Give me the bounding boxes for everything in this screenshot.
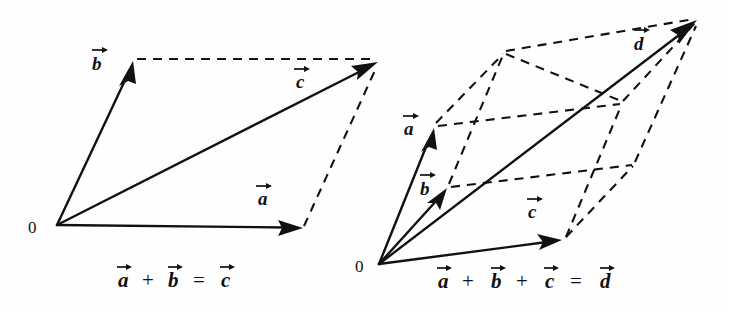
left-caption-a-overbar-arrow-icon [126, 264, 132, 270]
right-dashed-b-to-ab [449, 55, 503, 184]
right-dashed-b-to-bc [451, 165, 632, 187]
right-parallelepiped-diagram: a b c d 0 a [355, 19, 697, 293]
right-label-c-overbar-arrow-icon [537, 196, 543, 202]
left-caption-term-c: c [221, 268, 231, 292]
left-label-a-overbar-arrow-icon [266, 183, 272, 189]
left-label-b-group: b [92, 47, 108, 74]
right-caption-c-overbar-arrow-icon [553, 265, 559, 271]
left-label-a-group: a [256, 183, 272, 209]
right-label-b-group: b [420, 172, 436, 199]
left-vector-a-shaft [57, 225, 288, 228]
right-dashed-c-to-bc [566, 166, 633, 237]
left-label-b-overbar-arrow-icon [102, 47, 108, 53]
right-label-d-group: d [634, 27, 650, 54]
right-label-c-group: c [527, 196, 543, 222]
right-caption-equals: = [570, 269, 582, 293]
left-label-c-group: c [294, 66, 310, 92]
right-caption-term-d: d [600, 269, 611, 293]
left-dashed-right-edge [304, 66, 377, 226]
right-caption-term-a: a [438, 269, 449, 293]
left-caption-term-b: b [168, 268, 179, 292]
right-label-c: c [528, 201, 537, 222]
right-caption-b-overbar-arrow-icon [500, 265, 506, 271]
figure-root: a b c 0 a + b [0, 0, 729, 311]
left-caption-b-overbar-arrow-icon [177, 264, 183, 270]
left-label-b: b [92, 53, 102, 74]
right-caption-d-overbar-arrow-icon [609, 265, 615, 271]
right-caption-a-overbar-arrow-icon [446, 265, 452, 271]
right-dashed-a-to-ab [436, 54, 503, 123]
right-label-b: b [420, 178, 430, 199]
right-label-a: a [404, 118, 414, 139]
left-vector-c-arrowhead [351, 62, 378, 80]
right-origin-label: 0 [355, 257, 364, 276]
right-label-a-overbar-arrow-icon [413, 113, 419, 119]
right-dashed-a-to-ac [438, 104, 620, 126]
left-label-c: c [296, 71, 305, 92]
left-label-a: a [258, 188, 268, 209]
left-label-c-overbar-arrow-icon [304, 66, 310, 72]
right-caption-plus-2: + [516, 269, 528, 293]
left-origin-label: 0 [28, 218, 37, 237]
left-caption-equals: = [193, 268, 205, 292]
right-caption-term-b: b [491, 269, 502, 293]
right-caption-plus-1: + [462, 269, 474, 293]
right-caption-equation: a + b + c = d [437, 265, 615, 293]
right-caption-term-c: c [545, 269, 555, 293]
right-label-b-overbar-arrow-icon [430, 172, 436, 178]
right-vector-b-shaft [379, 200, 437, 264]
right-label-a-group: a [403, 113, 419, 139]
vector-diagrams-svg: a b c 0 a + b [0, 0, 729, 311]
right-vector-d-arrowhead [670, 20, 697, 44]
left-caption-c-overbar-arrow-icon [229, 264, 235, 270]
left-vector-b-shaft [57, 76, 127, 225]
left-parallelogram-diagram: a b c 0 a + b [28, 47, 378, 292]
right-dashed-c-to-ac [566, 106, 621, 237]
left-vector-b-arrowhead [119, 61, 136, 86]
left-caption-plus: + [142, 268, 154, 292]
right-vector-a-arrowhead [421, 128, 437, 152]
right-label-d: d [634, 33, 644, 54]
left-vector-c-shaft [57, 70, 363, 225]
right-label-d-overbar-arrow-icon [644, 27, 650, 33]
left-caption-equation: a + b = c [117, 264, 235, 292]
left-caption-term-a: a [118, 268, 129, 292]
